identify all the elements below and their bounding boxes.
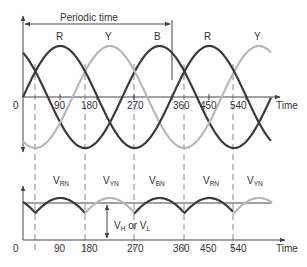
top-plot: Periodic time R Y B R Y 0 90 180 270 360… [13,12,298,152]
top-tick-180: 180 [81,100,98,111]
bottom-tick-540: 540 [230,243,247,254]
bottom-tick-450: 450 [200,243,217,254]
phase-label-r2: R [204,31,211,42]
top-tick-540: 540 [230,100,247,111]
top-tick-360: 360 [173,100,190,111]
phase-label-y2: Y [254,31,261,42]
bottom-tick-180: 180 [81,243,98,254]
top-tick-450: 450 [200,100,217,111]
segment-label-vyn2: VYN [247,175,263,187]
phase-label-r1: R [56,31,63,42]
segment-label-vrn1: VRN [53,175,69,187]
segment-label-vbn: VBN [149,175,165,187]
bottom-plot: VH or VL VRN VYN VBN VRN VYN 0 90 180 27… [13,175,298,254]
three-phase-diagram: Periodic time R Y B R Y 0 90 180 270 360… [0,0,307,267]
bottom-tick-90: 90 [54,243,66,254]
bottom-time-label: Time [276,243,298,254]
bottom-tick-270: 270 [127,243,144,254]
periodic-time-label: Periodic time [60,12,118,23]
bottom-origin-label: 0 [13,243,19,254]
bottom-tick-360: 360 [173,243,190,254]
phase-label-b1: B [154,31,161,42]
phase-label-y1: Y [105,31,112,42]
top-time-label: Time [276,100,298,111]
top-tick-90: 90 [54,100,66,111]
dc-value-label: VH or VL [114,220,151,232]
top-origin-label: 0 [13,100,19,111]
segment-label-vrn2: VRN [203,175,219,187]
top-tick-270: 270 [127,100,144,111]
segment-label-vyn1: VYN [103,175,119,187]
